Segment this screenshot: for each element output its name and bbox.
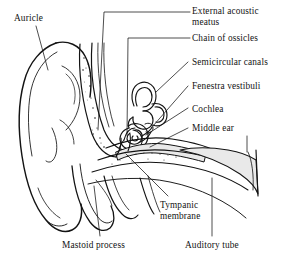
leader-tympanic-membrane (126, 154, 168, 196)
label-mastoid-process: Mastoid process (62, 240, 125, 251)
ear-anatomy-figure: External acoustic meatus Chain of ossicl… (0, 0, 297, 264)
label-tympanic-membrane: Tympanic membrane (160, 200, 200, 221)
mastoid-process-shape (72, 164, 160, 230)
label-external-acoustic-meatus: External acoustic meatus (192, 6, 259, 27)
leader-fenestra-vestibuli (153, 86, 188, 126)
label-fenestra-vestibuli: Fenestra vestibuli (192, 81, 261, 92)
bone-stipple-texture (82, 57, 105, 148)
label-middle-ear: Middle ear (192, 123, 234, 134)
label-auditory-tube: Auditory tube (185, 240, 239, 251)
label-semicircular-canals: Semicircular canals (192, 57, 268, 68)
leader-external-acoustic-meatus (98, 12, 190, 130)
semicircular-canals-shape (128, 82, 167, 129)
leader-chain-of-ossicles (127, 38, 190, 136)
label-cochlea: Cochlea (192, 104, 224, 115)
label-chain-of-ossicles: Chain of ossicles (192, 33, 258, 44)
leader-semicircular-canals (156, 62, 188, 92)
label-auricle: Auricle (14, 13, 43, 24)
